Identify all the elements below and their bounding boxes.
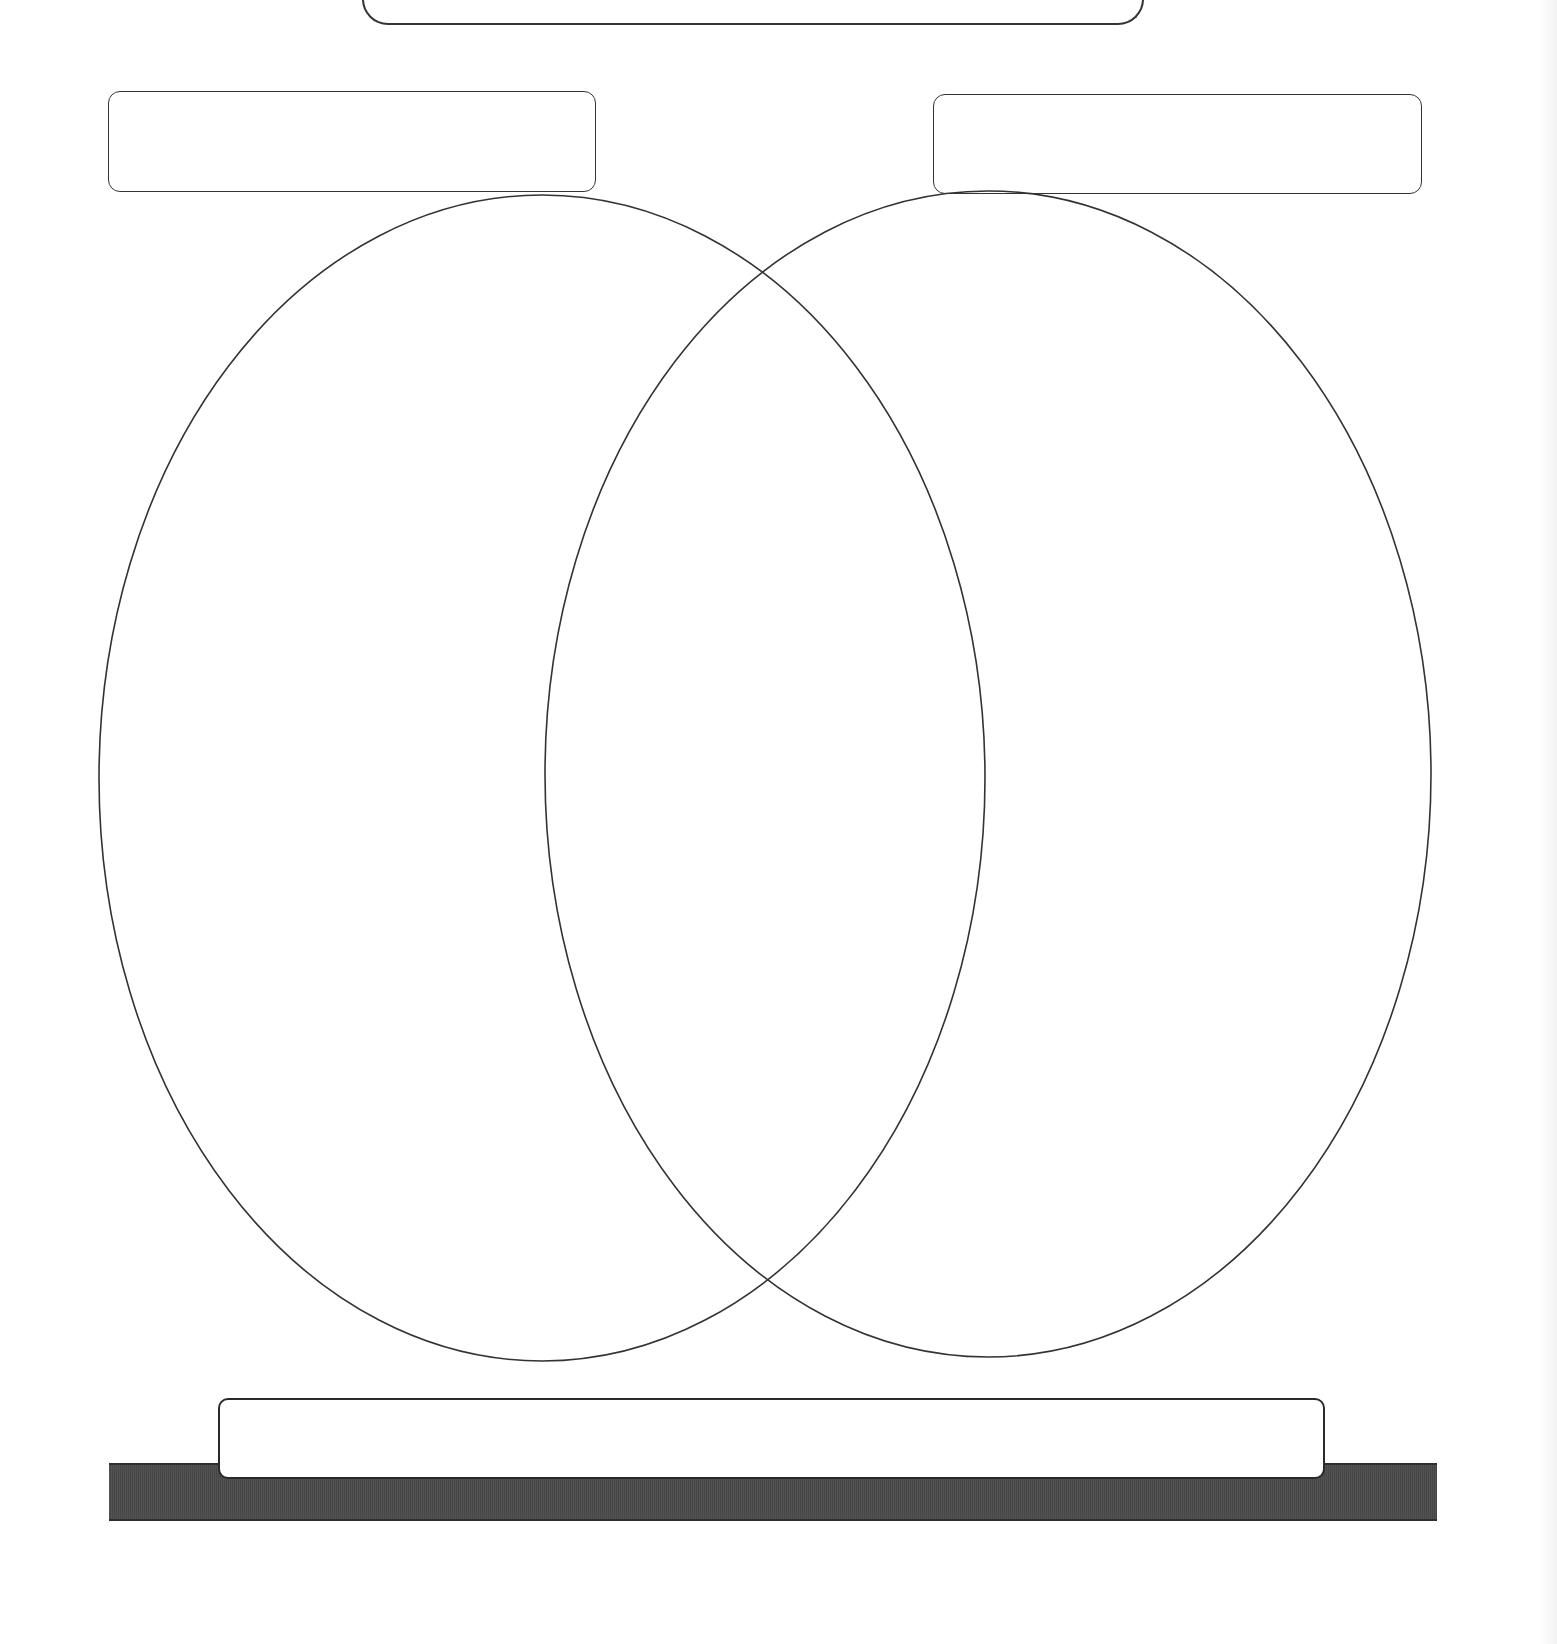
set-a-only-region[interactable] [140,450,520,1100]
set-b-only-region[interactable] [1010,450,1390,1100]
intersection-region[interactable] [590,450,950,1100]
bottom-text-box[interactable] [218,1398,1325,1479]
